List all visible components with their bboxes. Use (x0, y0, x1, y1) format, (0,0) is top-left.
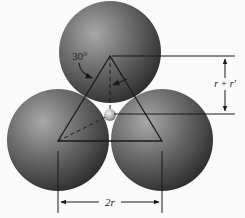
width-label: 2r (105, 196, 116, 208)
height-label: r + r′ (214, 78, 237, 89)
sphere-packing-diagram: r + r′ 2r 30° (0, 0, 245, 218)
angle-label: 30° (72, 50, 87, 62)
small-interstitial-sphere (104, 109, 116, 121)
